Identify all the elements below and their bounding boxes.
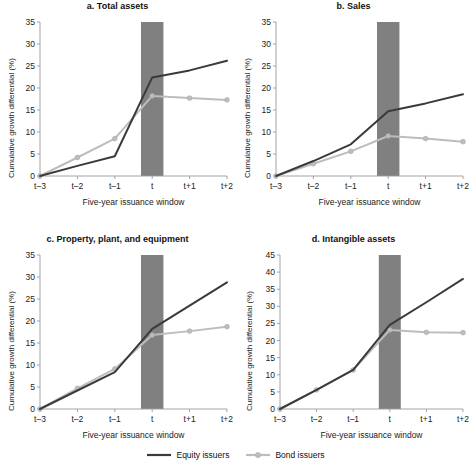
y-tick-label: 10: [262, 127, 272, 137]
y-tick-label: 20: [266, 336, 276, 346]
x-tick-label: t–2: [71, 414, 83, 424]
series-line-bond-issuers: [40, 327, 227, 409]
series-marker-bond-issuers: [423, 136, 428, 141]
x-axis-title: Five-year issuance window: [82, 430, 185, 440]
y-tick-label: 0: [270, 404, 275, 414]
y-tick-label: 30: [26, 39, 36, 49]
y-tick-label: 25: [266, 318, 276, 328]
series-marker-bond-issuers: [461, 330, 466, 335]
series-marker-bond-issuers: [187, 96, 192, 101]
x-tick-label: t: [389, 414, 392, 424]
panel-d-plot: 051015202530354045t–3t–2t–1tt+1t+2Five-y…: [236, 233, 471, 466]
panel-a-plot: 05101520253035t–3t–2t–1tt+1t+2Five-year …: [0, 0, 235, 233]
x-tick-label: t–2: [307, 181, 319, 191]
series-marker-bond-issuers: [150, 333, 155, 338]
x-tick-label: t+1: [420, 181, 432, 191]
y-tick-label: 5: [270, 387, 275, 397]
x-tick-label: t: [151, 181, 154, 191]
y-tick-label: 35: [26, 250, 36, 260]
x-tick-label: t+2: [221, 414, 233, 424]
y-tick-label: 25: [26, 61, 36, 71]
legend-label-bond-issuers: Bond issuers: [275, 450, 324, 460]
x-axis-title: Five-year issuance window: [82, 197, 185, 207]
y-tick-label: 25: [262, 61, 272, 71]
figure-four-panel-growth-differentials: a. Total assets 05101520253035t–3t–2t–1t…: [0, 0, 471, 466]
x-tick-label: t–1: [109, 414, 121, 424]
x-tick-label: t+2: [457, 181, 469, 191]
series-marker-bond-issuers: [386, 134, 391, 139]
series-line-bond-issuers: [40, 96, 227, 176]
y-tick-label: 15: [266, 353, 276, 363]
x-axis-title: Five-year issuance window: [318, 197, 421, 207]
y-tick-label: 45: [266, 250, 276, 260]
x-tick-label: t–1: [345, 181, 357, 191]
x-tick-label: t–2: [311, 414, 323, 424]
legend-entry-bond-issuers: Bond issuers: [245, 450, 324, 460]
panel-b-sales: b. Sales 05101520253035t–3t–2t–1tt+1t+2F…: [236, 0, 471, 233]
y-tick-label: 40: [266, 267, 276, 277]
y-tick-label: 0: [30, 404, 35, 414]
y-tick-label: 35: [262, 17, 272, 27]
panel-c-property-plant-equipment: c. Property, plant, and equipment 051015…: [0, 233, 235, 466]
y-tick-label: 35: [266, 284, 276, 294]
y-tick-label: 20: [262, 83, 272, 93]
y-tick-label: 15: [262, 105, 272, 115]
x-tick-label: t–3: [34, 414, 46, 424]
y-tick-label: 30: [26, 272, 36, 282]
y-tick-label: 30: [262, 39, 272, 49]
series-marker-bond-issuers: [461, 139, 466, 144]
y-tick-label: 0: [30, 171, 35, 181]
series-marker-bond-issuers: [75, 155, 80, 160]
panel-c-plot: 05101520253035t–3t–2t–1tt+1t+2Five-year …: [0, 233, 235, 466]
y-tick-label: 20: [26, 83, 36, 93]
x-tick-label: t–3: [274, 414, 286, 424]
y-tick-label: 35: [26, 17, 36, 27]
legend-label-equity-issuers: Equity issuers: [176, 450, 229, 460]
y-tick-label: 15: [26, 338, 36, 348]
legend-line-bond-icon: [245, 450, 271, 460]
x-tick-label: t+1: [184, 181, 196, 191]
x-tick-label: t: [151, 414, 154, 424]
figure-legend: Equity issuers Bond issuers: [0, 446, 471, 464]
y-tick-label: 10: [26, 360, 36, 370]
series-line-equity-issuers: [40, 282, 227, 409]
series-line-bond-issuers: [280, 330, 463, 409]
series-marker-bond-issuers: [225, 324, 230, 329]
y-tick-label: 5: [30, 149, 35, 159]
y-tick-label: 5: [266, 149, 271, 159]
legend-line-equity-icon: [146, 450, 172, 460]
x-tick-label: t: [387, 181, 390, 191]
x-tick-label: t–1: [109, 181, 121, 191]
series-line-bond-issuers: [276, 136, 463, 176]
series-marker-bond-issuers: [348, 149, 353, 154]
legend-entry-equity-issuers: Equity issuers: [146, 450, 229, 460]
x-tick-label: t+1: [184, 414, 196, 424]
y-axis-title: Cumulative growth differential (%): [245, 291, 254, 411]
issuance-window-band: [377, 22, 399, 176]
x-tick-label: t–1: [347, 414, 359, 424]
panel-a-total-assets: a. Total assets 05101520253035t–3t–2t–1t…: [0, 0, 235, 233]
y-axis-title: Cumulative growth differential (%): [243, 58, 252, 178]
series-line-equity-issuers: [276, 94, 463, 176]
y-tick-label: 10: [26, 127, 36, 137]
x-tick-label: t–2: [71, 181, 83, 191]
series-marker-bond-issuers: [424, 330, 429, 335]
series-marker-bond-issuers: [150, 94, 155, 99]
series-marker-bond-issuers: [225, 97, 230, 102]
x-tick-label: t+2: [457, 414, 469, 424]
series-line-equity-issuers: [40, 61, 227, 176]
panel-b-plot: 05101520253035t–3t–2t–1tt+1t+2Five-year …: [236, 0, 471, 233]
issuance-window-band: [141, 22, 163, 176]
y-axis-title: Cumulative growth differential (%): [7, 58, 16, 178]
y-tick-label: 0: [266, 171, 271, 181]
y-tick-label: 30: [266, 301, 276, 311]
y-tick-label: 25: [26, 294, 36, 304]
y-axis-title: Cumulative growth differential (%): [7, 291, 16, 411]
y-tick-label: 5: [30, 382, 35, 392]
y-tick-label: 10: [266, 370, 276, 380]
y-tick-label: 15: [26, 105, 36, 115]
series-line-equity-issuers: [280, 279, 463, 409]
panel-d-intangible-assets: d. Intangible assets 051015202530354045t…: [236, 233, 471, 466]
x-tick-label: t+1: [420, 414, 432, 424]
x-tick-label: t+2: [221, 181, 233, 191]
